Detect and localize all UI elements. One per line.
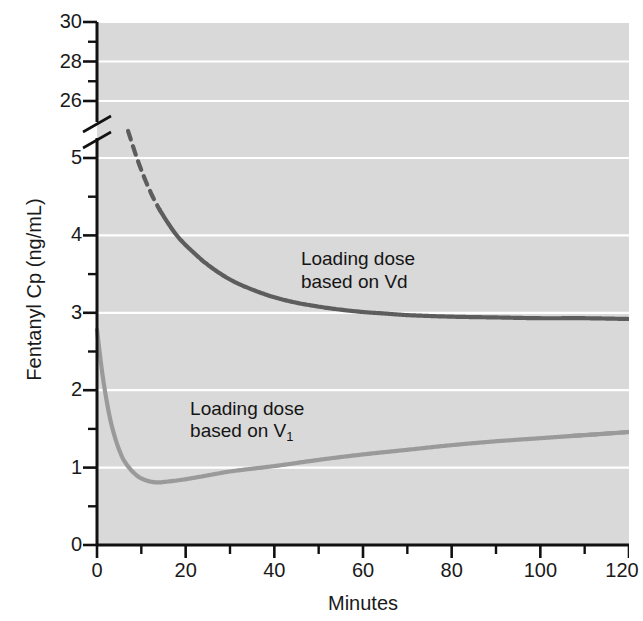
x-tick-label-120: 120 bbox=[592, 560, 643, 580]
y-tick-label-26: 26 bbox=[38, 90, 82, 110]
annotation-v1-line1: Loading dose bbox=[190, 398, 304, 420]
annotation-vd-line2: based on Vd bbox=[301, 271, 415, 293]
annotation-v1-line2-prefix: based on V bbox=[190, 420, 286, 441]
x-tick-label-100: 100 bbox=[510, 560, 570, 580]
annotation-vd-line1: Loading dose bbox=[301, 248, 415, 270]
x-tick-label-80: 80 bbox=[422, 560, 482, 580]
annotation-loading-dose-vd: Loading dose based on Vd bbox=[301, 248, 415, 293]
x-tick-label-40: 40 bbox=[244, 560, 304, 580]
y-tick-label-0: 0 bbox=[38, 534, 82, 554]
annotation-loading-dose-v1: Loading dose based on V1 bbox=[190, 398, 304, 443]
annotation-v1-subscript: 1 bbox=[286, 429, 293, 444]
annotation-v1-line2: based on V1 bbox=[190, 420, 304, 442]
x-tick-label-0: 0 bbox=[67, 560, 127, 580]
y-tick-label-1: 1 bbox=[38, 457, 82, 477]
y-axis-title: Fentanyl Cp (ng/mL) bbox=[23, 160, 46, 420]
x-axis-title: Minutes bbox=[97, 592, 629, 615]
x-tick-label-60: 60 bbox=[333, 560, 393, 580]
y-tick-label-28: 28 bbox=[38, 51, 82, 71]
y-tick-label-30: 30 bbox=[38, 11, 82, 31]
x-tick-label-20: 20 bbox=[156, 560, 216, 580]
